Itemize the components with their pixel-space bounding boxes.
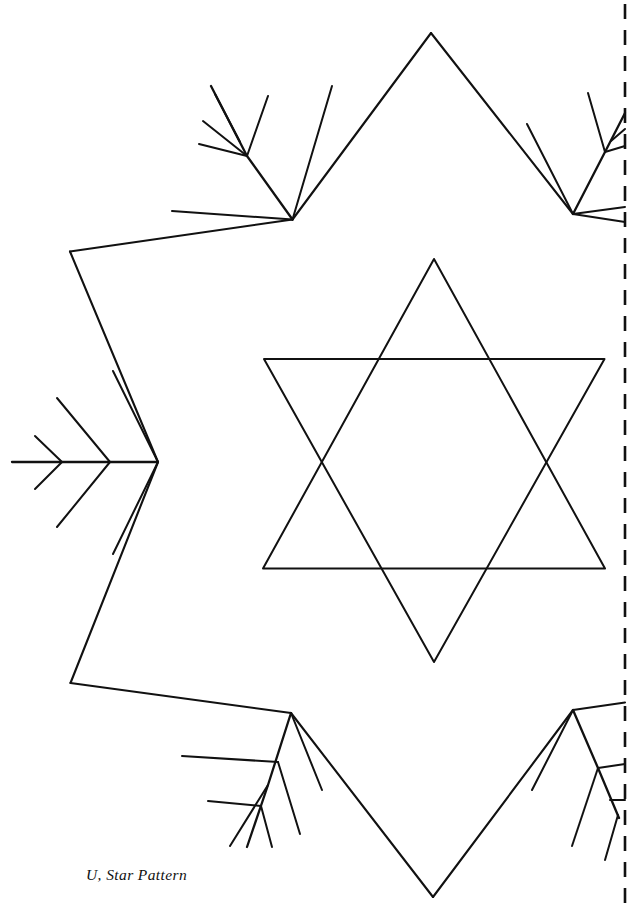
- feather-bottom-left-barb-right-1: [291, 713, 322, 790]
- outline-seg-lower-left-notch-to-bottom: [291, 713, 433, 897]
- feather-bottom-right-barb-tick: [605, 815, 618, 860]
- feather-top-left-spine: [211, 86, 293, 220]
- feather-top-left-barb-right-2: [247, 96, 268, 156]
- feather-top-left-barb-left-1: [172, 211, 293, 220]
- outline-seg-bottom-to-lower-right-notch: [433, 710, 573, 897]
- outline-seg-left-lower-vertex-to-lower-left-notch: [71, 683, 292, 713]
- hexagram: [263, 259, 605, 662]
- outline-seg-upper-right-notch-to-fold: [573, 214, 625, 222]
- feather-left-barb-lower-3: [113, 462, 158, 554]
- feather-bottom-left-barb-right-3: [261, 806, 272, 847]
- feather-left-barb-lower-2: [57, 462, 110, 527]
- feather-left-barb-upper-2: [57, 398, 110, 462]
- feather-bottom-right-spine: [573, 710, 619, 818]
- feather-left-barb-lower-1: [35, 462, 62, 489]
- feather-left-barb-upper-3: [113, 371, 158, 462]
- feather-bottom-left-barb-left-3: [208, 801, 261, 806]
- outline-seg-top-to-upper-right-notch: [431, 33, 573, 214]
- feather-bottom-left-barb-left-1: [182, 756, 278, 762]
- snowflake-outline: [70, 33, 625, 897]
- outline-seg-lower-right-notch-to-fold: [573, 703, 625, 711]
- pattern-page: U, Star Pattern: [0, 0, 640, 909]
- star-pattern-figure: [0, 0, 640, 909]
- feather-left-barb-upper-1: [35, 436, 62, 462]
- feather-top-right-barb-left-2: [588, 93, 605, 152]
- feather-bottom-right-barb-left-2: [572, 768, 598, 846]
- feather-bottom-left: [182, 713, 322, 847]
- feather-top-right-barb-right-1: [573, 207, 625, 214]
- feather-bottom-right-barb-right-2: [598, 764, 625, 768]
- feather-top-left-barb-right-1: [293, 86, 333, 220]
- outline-seg-top-to-upper-left-notch: [293, 33, 432, 220]
- outline-seg-upper-left-notch-to-left-upper-vertex: [70, 220, 293, 252]
- figure-caption: U, Star Pattern: [86, 866, 187, 884]
- feather-bottom-left-barb-left-2: [230, 785, 268, 846]
- hexagram-triangle-up: [263, 259, 605, 569]
- hexagram-triangle-down: [264, 359, 605, 662]
- feather-bottom-right: [532, 710, 625, 860]
- feather-bottom-left-barb-right-2: [278, 762, 300, 834]
- feather-left: [12, 371, 158, 554]
- feather-top-right-barb-left-1: [527, 124, 573, 214]
- feather-bottom-right-barb-left-1: [532, 710, 573, 790]
- feather-top-right: [527, 93, 625, 214]
